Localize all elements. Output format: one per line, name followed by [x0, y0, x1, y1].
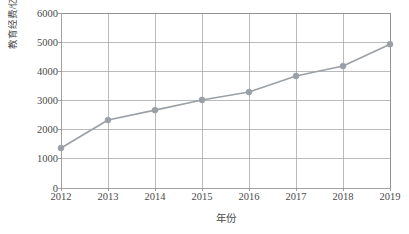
x-axis-tick-labels: 20122013201420152016201720182019	[0, 0, 409, 234]
x-axis-tick-label: 2015	[180, 191, 224, 203]
x-axis-tick-label: 2014	[133, 191, 177, 203]
x-axis-tick-label: 2019	[368, 191, 409, 203]
x-axis-title: 年份	[61, 210, 390, 225]
x-axis-tick-label: 2016	[227, 191, 271, 203]
x-axis-tick-label: 2013	[86, 191, 130, 203]
x-axis-tick-label: 2012	[39, 191, 83, 203]
x-axis-tick-label: 2018	[321, 191, 365, 203]
x-axis-tick-label: 2017	[274, 191, 318, 203]
line-chart: 教育经费/亿元 0100020003000400050006000 201220…	[0, 0, 409, 234]
